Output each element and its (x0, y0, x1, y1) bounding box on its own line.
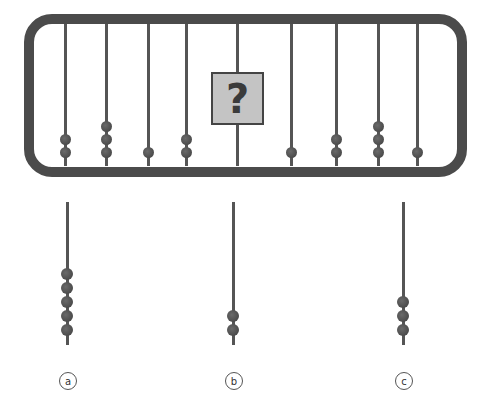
bead (60, 147, 71, 158)
bead (227, 324, 239, 336)
question-mark-box: ? (211, 72, 264, 125)
bead (101, 134, 112, 145)
bead (61, 324, 73, 336)
question-mark: ? (226, 79, 249, 119)
bead (61, 282, 73, 294)
bead (331, 134, 342, 145)
bead (143, 147, 154, 158)
abacus-rod (416, 24, 419, 166)
bead (60, 134, 71, 145)
option-label-a[interactable]: a (59, 372, 77, 390)
bead (373, 121, 384, 132)
bead (286, 147, 297, 158)
option-label-c[interactable]: c (395, 372, 413, 390)
bead (397, 296, 409, 308)
bead (61, 296, 73, 308)
bead (181, 147, 192, 158)
abacus-rod (290, 24, 293, 166)
abacus-rod (147, 24, 150, 166)
bead (227, 310, 239, 322)
bead (61, 310, 73, 322)
bead (412, 147, 423, 158)
bead (397, 324, 409, 336)
bead (373, 134, 384, 145)
bead (101, 147, 112, 158)
option-label-b[interactable]: b (225, 372, 243, 390)
bead (373, 147, 384, 158)
bead (181, 134, 192, 145)
bead (61, 268, 73, 280)
bead (397, 310, 409, 322)
bead (331, 147, 342, 158)
bead (101, 121, 112, 132)
